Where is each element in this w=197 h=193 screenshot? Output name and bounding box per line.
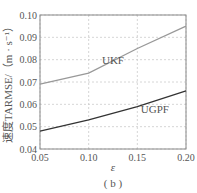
grid-lines bbox=[40, 15, 186, 149]
y-tick-label: 0.09 bbox=[20, 32, 38, 43]
x-tick-label: 0.15 bbox=[129, 152, 147, 163]
y-axis-label: 速度TARMSE/（m · s⁻¹） bbox=[1, 21, 14, 143]
series-group: UKFUGPF bbox=[40, 26, 186, 131]
figure-caption: ( b ) bbox=[104, 177, 123, 190]
x-tick-label: 0.20 bbox=[177, 152, 195, 163]
y-tick-label: 0.06 bbox=[20, 99, 38, 110]
series-label-ugpf: UGPF bbox=[141, 103, 169, 115]
y-tick-label: 0.08 bbox=[20, 54, 38, 65]
line-chart: UKFUGPF 0.040.050.060.070.080.090.10 0.0… bbox=[0, 0, 197, 193]
y-tick-label: 0.07 bbox=[20, 77, 38, 88]
x-axis-label: ε bbox=[111, 161, 116, 173]
series-label-ukf: UKF bbox=[102, 54, 124, 66]
y-tick-label: 0.05 bbox=[20, 121, 38, 132]
x-tick-label: 0.10 bbox=[80, 152, 98, 163]
y-axis-ticks: 0.040.050.060.070.080.090.10 bbox=[20, 10, 38, 155]
x-tick-label: 0.05 bbox=[31, 152, 49, 163]
y-tick-label: 0.10 bbox=[20, 10, 38, 21]
